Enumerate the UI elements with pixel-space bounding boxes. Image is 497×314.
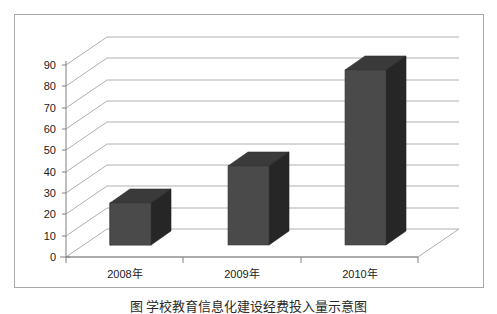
- bar-2008-3d: [110, 189, 171, 245]
- y-axis: [60, 61, 70, 257]
- ytick-label-20: 20: [32, 209, 56, 220]
- ytick-label-50: 50: [32, 145, 56, 156]
- ytick-label-60: 60: [32, 124, 56, 135]
- bar-2010-side: [386, 56, 406, 245]
- xtick-label-2009: 2009年: [187, 268, 297, 280]
- bar-2009-3d[interactable]: [228, 152, 289, 245]
- xtick-label-2008: 2008年: [70, 268, 180, 280]
- bar-chart-3d: [0, 0, 497, 314]
- bar-2010-front: [345, 70, 386, 245]
- ytick-label-80: 80: [32, 81, 56, 92]
- bar-2009-front: [228, 166, 269, 245]
- ytick-label-40: 40: [32, 167, 56, 178]
- ytick-label-0: 0: [32, 252, 56, 263]
- ytick-label-90: 90: [32, 60, 56, 71]
- ytick-label-70: 70: [32, 103, 56, 114]
- x-axis: [66, 257, 418, 263]
- figure-caption: 图 学校教育信息化建设经费投入量示意图: [0, 299, 497, 314]
- bar-2009-side: [269, 152, 289, 245]
- bar-2008-front: [110, 203, 151, 245]
- xtick-label-2010: 2010年: [305, 268, 415, 280]
- bar-2010-3d[interactable]: [345, 56, 406, 245]
- ytick-label-30: 30: [32, 188, 56, 199]
- ytick-label-10: 10: [32, 231, 56, 242]
